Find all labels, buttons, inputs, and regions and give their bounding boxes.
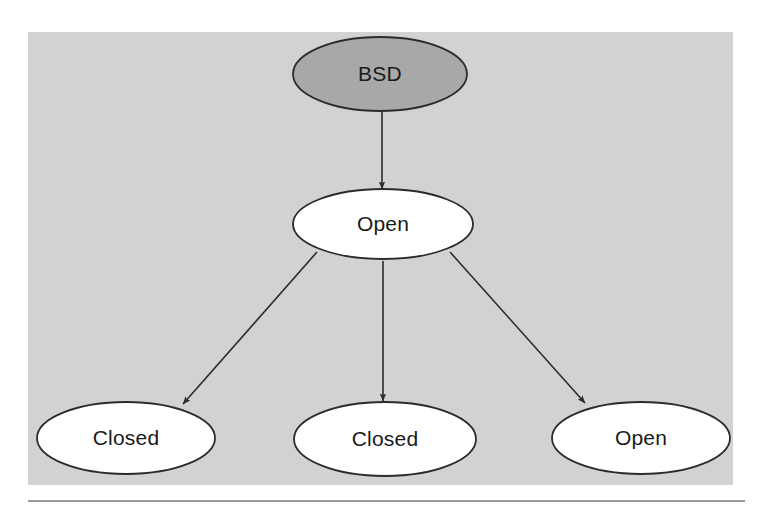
node-open-root[interactable]: Open — [293, 189, 473, 259]
bsd-state-diagram: BSD Open Closed Closed Open — [0, 0, 757, 516]
node-closed-middle[interactable]: Closed — [294, 402, 476, 476]
node-closed-left[interactable]: Closed — [37, 402, 215, 474]
node-open-root-label: Open — [357, 212, 409, 235]
node-bsd-label: BSD — [358, 62, 402, 85]
node-bsd[interactable]: BSD — [293, 37, 467, 111]
node-open-right-label: Open — [615, 426, 667, 449]
node-closed-left-label: Closed — [93, 426, 160, 449]
node-open-right[interactable]: Open — [552, 402, 730, 474]
node-closed-middle-label: Closed — [352, 427, 419, 450]
